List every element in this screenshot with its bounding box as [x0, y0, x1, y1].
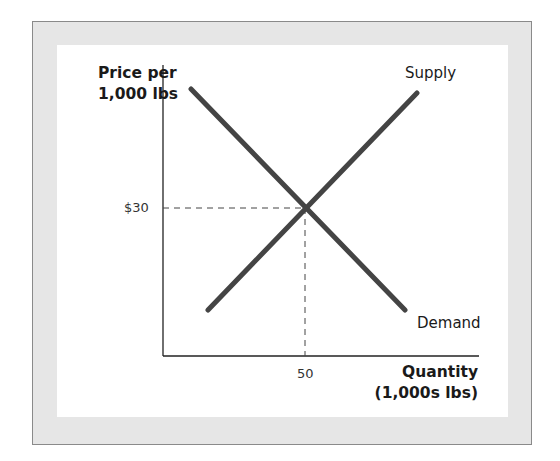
demand-curve — [191, 89, 405, 310]
y-axis-label: Price per 1,000 lbs — [98, 63, 158, 105]
x-axis-label: Quantity (1,000s lbs) — [370, 362, 478, 404]
supply-label: Supply — [405, 64, 456, 82]
supply-curve — [208, 93, 417, 310]
x-tick-label: 50 — [297, 366, 314, 381]
y-tick-label: $30 — [124, 200, 149, 215]
demand-label: Demand — [417, 314, 481, 332]
